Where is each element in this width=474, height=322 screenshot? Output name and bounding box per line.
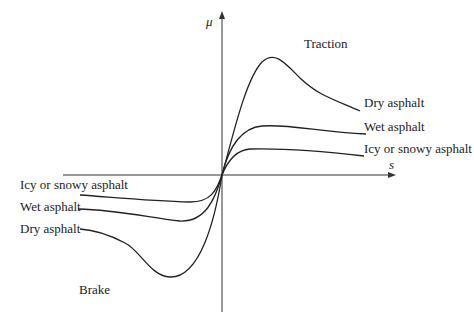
traction-dry-label: Dry asphalt	[364, 95, 425, 110]
y-axis-label: μ	[205, 14, 213, 29]
brake-icy-label: Icy or snowy asphalt	[20, 177, 128, 192]
traction-icy-curve	[222, 149, 364, 175]
traction-wet-label: Wet asphalt	[364, 119, 425, 134]
x-axis-label: s	[389, 157, 394, 172]
traction-icy-label: Icy or snowy asphalt	[364, 141, 472, 156]
x-axis-arrow-icon	[388, 172, 396, 178]
y-axis-arrow-icon	[219, 11, 225, 19]
traction-dry-curve	[222, 57, 360, 175]
brake-dry-label: Dry asphalt	[20, 221, 81, 236]
brake-wet-label: Wet asphalt	[20, 199, 81, 214]
traction-label: Traction	[304, 36, 348, 51]
brake-label: Brake	[79, 282, 110, 297]
mu-slip-diagram: μ s Traction Dry asphalt Wet asphalt Icy…	[0, 0, 474, 322]
